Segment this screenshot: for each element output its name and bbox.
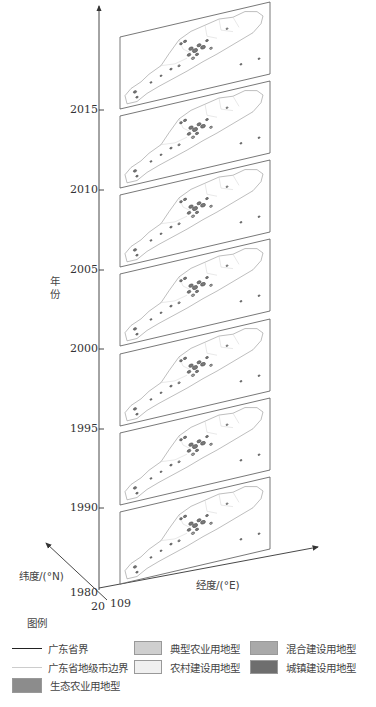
fill-swatch: [134, 641, 162, 655]
legend-typical-agri: 典型农业用地型: [134, 640, 240, 656]
legend-mixed-construction: 混合建设用地型: [250, 640, 356, 656]
origin-lon-label: 109: [110, 597, 131, 610]
map-stack-chart: 1990 1995 2000 2005 2010 2015 年份 1980 20…: [0, 0, 376, 707]
longitude-axis-label: 经度/(°E): [196, 577, 240, 592]
legend-city-boundary: 广东省地级市边界: [12, 659, 128, 675]
line-swatch: [12, 667, 42, 668]
legend-title: 图例: [27, 615, 47, 630]
fill-swatch: [12, 678, 42, 693]
legend-province-boundary: 广东省界: [12, 640, 88, 656]
legend-urban-construction: 城镇建设用地型: [250, 659, 356, 675]
year-axis-label: 年份: [50, 275, 62, 301]
line-swatch: [12, 648, 42, 649]
tick-2015: 2015: [70, 103, 98, 116]
tick-1995: 1995: [70, 422, 98, 435]
tick-2000: 2000: [70, 342, 98, 355]
tick-2010: 2010: [70, 183, 98, 196]
fill-swatch: [134, 660, 162, 674]
legend-eco-agri: 生态农业用地型: [12, 677, 120, 693]
origin-year-label: 1980: [70, 586, 98, 599]
map-panels: [120, 2, 270, 584]
tick-1990: 1990: [70, 501, 98, 514]
fill-swatch: [250, 641, 278, 655]
origin-lat-label: 20: [91, 600, 105, 613]
tick-2005: 2005: [70, 263, 98, 276]
latitude-axis-label: 纬度/(°N): [19, 568, 64, 583]
fill-swatch: [250, 660, 278, 674]
legend-rural-construction: 农村建设用地型: [134, 659, 240, 675]
